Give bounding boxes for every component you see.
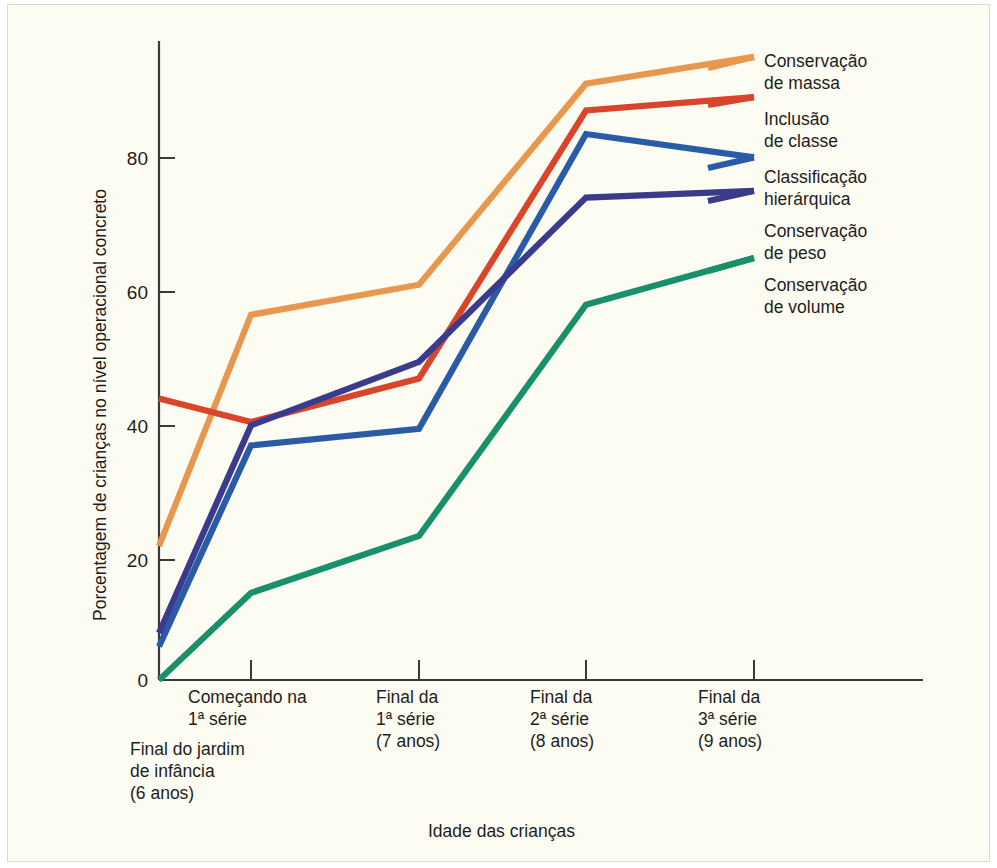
legend-label-line: de classe — [764, 131, 838, 151]
legend-label-line: Conservação — [764, 221, 867, 241]
x-category-label-line: 1ª série — [376, 709, 435, 729]
series-lines — [159, 57, 754, 680]
x-category-label-line: 1ª série — [188, 709, 247, 729]
legend-item-classificacao-hierarquica[interactable]: Classificação hierárquica — [764, 167, 867, 209]
legend-label-line: Conservação — [764, 275, 867, 295]
x-axis-title: Idade das crianças — [428, 821, 575, 841]
legend: Conservação de massa Inclusão de classe … — [764, 51, 867, 317]
line-chart-svg: Porcentagem de crianças no nível operaci… — [8, 5, 991, 863]
x-category-label-line: 3ª série — [698, 709, 757, 729]
legend-label-line: Classificação — [764, 167, 867, 187]
legend-label-line: hierárquica — [764, 189, 851, 209]
legend-label-line: Conservação — [764, 51, 867, 71]
legend-label-line: Inclusão — [764, 109, 829, 129]
x-category-label-3: Final da 2ª série (8 anos) — [530, 687, 594, 751]
legend-item-conservacao-de-volume[interactable]: Conservação de volume — [764, 275, 867, 317]
legend-swatch-conservacao-de-volume — [708, 258, 754, 271]
x-axis-ticks — [251, 660, 754, 680]
legend-item-inclusao-de-classe[interactable]: Inclusão de classe — [764, 109, 838, 151]
legend-label-line: de massa — [764, 73, 840, 93]
series-line-conservacao-de-peso — [159, 191, 754, 633]
series-line-classificacao-hierarquica — [159, 134, 754, 647]
x-category-label-line: Final da — [698, 687, 761, 707]
legend-item-conservacao-de-peso[interactable]: Conservação de peso — [764, 221, 867, 263]
y-axis-ticks — [158, 158, 175, 560]
series-line-conservacao-de-massa — [159, 57, 754, 546]
y-tick-labels: 80 60 40 20 0 — [127, 148, 148, 691]
x-category-label-line: (7 anos) — [376, 731, 440, 751]
x-category-label-line: (6 anos) — [130, 783, 194, 803]
x-category-label-line: (9 anos) — [698, 731, 762, 751]
y-tick-label: 60 — [127, 282, 148, 303]
x-category-label-1: Começando na 1ª série — [188, 687, 307, 729]
y-tick-label: 20 — [127, 550, 148, 571]
x-category-label-4: Final da 3ª série (9 anos) — [698, 687, 762, 751]
y-tick-label: 0 — [137, 670, 148, 691]
y-axis-title: Porcentagem de crianças no nível operaci… — [90, 189, 110, 621]
y-tick-label: 80 — [127, 148, 148, 169]
x-category-label-line: (8 anos) — [530, 731, 594, 751]
x-category-label-line: 2ª série — [530, 709, 589, 729]
x-category-labels: Final do jardim de infância (6 anos) Com… — [130, 687, 762, 803]
legend-swatches — [708, 57, 754, 271]
legend-swatch-classificacao-hierarquica — [708, 157, 754, 168]
legend-item-conservacao-de-massa[interactable]: Conservação de massa — [764, 51, 867, 93]
chart-figure: Porcentagem de crianças no nível operaci… — [7, 4, 990, 862]
x-category-label-line: Começando na — [188, 687, 307, 707]
x-category-label-line: de infância — [130, 761, 215, 781]
x-category-label-line: Final do jardim — [130, 739, 245, 759]
legend-label-line: de peso — [764, 243, 826, 263]
x-category-label-line: Final da — [530, 687, 593, 707]
legend-label-line: de volume — [764, 297, 845, 317]
x-category-label-line: Final da — [376, 687, 439, 707]
x-category-label-0: Final do jardim de infância (6 anos) — [130, 739, 245, 803]
x-category-label-2: Final da 1ª série (7 anos) — [376, 687, 440, 751]
y-tick-label: 40 — [127, 416, 148, 437]
